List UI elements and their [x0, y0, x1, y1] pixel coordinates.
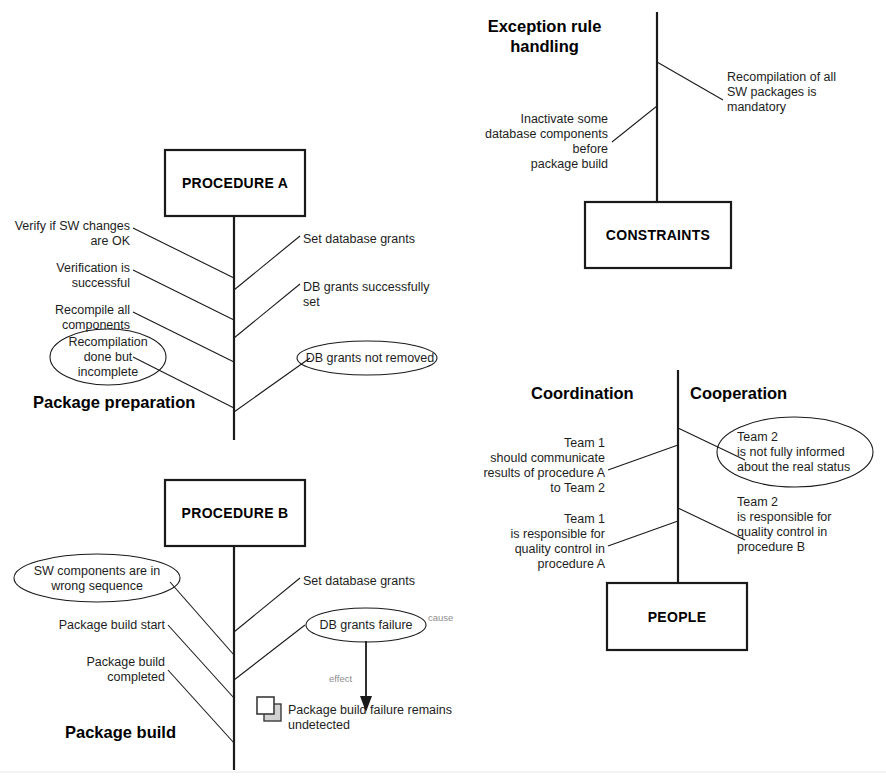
label-team2-responsible-quality-b: Team 2 is responsible for quality contro… [737, 495, 886, 555]
procedure-a-box-label: PROCEDURE A [165, 150, 305, 216]
section-title-cooperation: Cooperation [690, 383, 787, 403]
section-title-coordination: Coordination [531, 383, 634, 403]
label-recompile-all-components: Recompile all components [0, 303, 130, 333]
rib-right-2 [234, 284, 300, 338]
label-db-grants-successfully-set: DB grants successfully set [303, 280, 473, 310]
rib-left-b-3 [168, 670, 234, 743]
label-set-database-grants-b: Set database grants [303, 574, 473, 589]
label-recompilation-done-incomplete: Recompilation done but incomplete [52, 335, 164, 380]
label-package-build-start: Package build start [0, 618, 165, 633]
rib-right-1 [234, 236, 300, 290]
rib-right-3 [234, 358, 310, 412]
rib-left-cc-1 [608, 445, 678, 470]
label-db-grants-not-removed: DB grants not removed [300, 351, 440, 366]
copy-squares-icon [257, 697, 281, 721]
label-sw-components-wrong-sequence: SW components are in wrong sequence [14, 564, 180, 594]
procedure-b-box-label: PROCEDURE B [165, 480, 305, 546]
section-title-package-build: Package build [65, 722, 176, 742]
rib-right-cc-2 [678, 508, 745, 540]
label-verification-successful: Verification is successful [0, 261, 130, 291]
constraints-box-label: CONSTRAINTS [585, 202, 731, 268]
label-package-build-failure-undetected: Package build failure remains undetected [288, 703, 488, 733]
rib-left-exc-1 [612, 106, 657, 142]
rib-left-cc-2 [608, 521, 678, 546]
label-db-grants-failure: DB grants failure [306, 618, 426, 633]
label-inactivate-database-components: Inactivate some database components befo… [440, 112, 608, 172]
label-verify-sw-changes: Verify if SW changes are OK [0, 219, 130, 249]
label-effect: effect [329, 673, 352, 684]
label-set-database-grants-a: Set database grants [303, 232, 473, 247]
label-recompilation-mandatory: Recompilation of all SW packages is mand… [727, 70, 882, 115]
label-team2-not-fully-informed: Team 2 is not fully informed about the r… [737, 430, 886, 475]
rib-left-2 [133, 270, 234, 320]
rib-right-b-2 [234, 625, 305, 680]
rib-right-b-1 [234, 578, 300, 632]
section-title-exception-rule-handling: Exception rule handling [452, 16, 637, 56]
rib-right-exc-1 [657, 62, 723, 100]
label-package-build-completed: Package build completed [0, 655, 165, 685]
people-box-label: PEOPLE [607, 583, 747, 650]
rib-left-1 [133, 228, 234, 278]
rib-left-b-2 [168, 625, 234, 698]
rib-right-cc-1 [678, 428, 745, 460]
section-title-package-preparation: Package preparation [33, 392, 195, 412]
label-team1-responsible-quality-a: Team 1 is responsible for quality contro… [440, 512, 605, 572]
label-team1-should-communicate: Team 1 should communicate results of pro… [440, 436, 605, 496]
label-cause: cause [428, 612, 453, 623]
